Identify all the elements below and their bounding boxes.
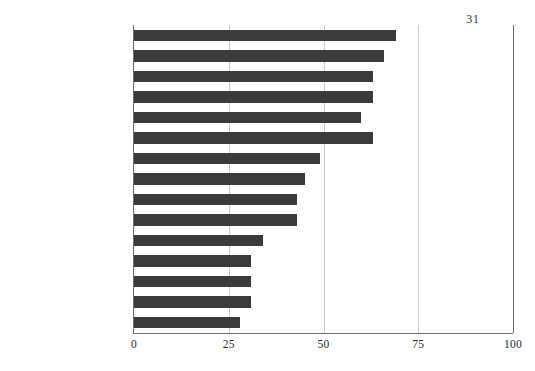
bar-row: Procurement method bbox=[134, 87, 513, 108]
bar-row: Clarity of brief bbox=[134, 189, 513, 210]
bar bbox=[134, 112, 361, 124]
bar bbox=[134, 276, 251, 288]
bar-row: Client environment bbox=[134, 148, 513, 169]
bar-row: Project size bbox=[134, 107, 513, 128]
bar-row: Structure of project bbox=[134, 210, 513, 231]
bar-row: Tasks involved bbox=[134, 46, 513, 67]
bar bbox=[134, 132, 373, 144]
gridline-100 bbox=[513, 25, 514, 333]
bar-row: Social bbox=[134, 292, 513, 313]
bar bbox=[134, 194, 297, 206]
x-tick-label: 25 bbox=[223, 338, 235, 350]
horizontal-bar-chart: 31 Programme (schedule)Tasks involvedCom… bbox=[0, 0, 535, 371]
bar-series: Programme (schedule)Tasks involvedCommun… bbox=[134, 25, 513, 333]
bar bbox=[134, 296, 251, 308]
bar-row: Structure of project team bbox=[134, 230, 513, 251]
bar-row: Management style bbox=[134, 312, 513, 333]
bar bbox=[134, 91, 373, 103]
bar-row: Programme (schedule) bbox=[134, 25, 513, 46]
bar-row: Communications bbox=[134, 66, 513, 87]
bar-row: Number of parties bbox=[134, 128, 513, 149]
x-tick-label: 75 bbox=[412, 338, 424, 350]
bar bbox=[134, 173, 305, 185]
bar bbox=[134, 153, 320, 165]
bar-row: Project duration bbox=[134, 251, 513, 272]
bar bbox=[134, 30, 396, 42]
bar bbox=[134, 50, 384, 62]
bar-row: Project resource bbox=[134, 169, 513, 190]
bar bbox=[134, 235, 263, 247]
x-tick-label: 0 bbox=[131, 338, 137, 350]
bar bbox=[134, 255, 251, 267]
bar bbox=[134, 214, 297, 226]
x-tick-label: 50 bbox=[317, 338, 329, 350]
plot-area: Programme (schedule)Tasks involvedCommun… bbox=[133, 25, 513, 334]
bar bbox=[134, 71, 373, 83]
x-tick-label: 100 bbox=[504, 338, 522, 350]
bar-row: Cultural bbox=[134, 271, 513, 292]
bar bbox=[134, 317, 240, 329]
